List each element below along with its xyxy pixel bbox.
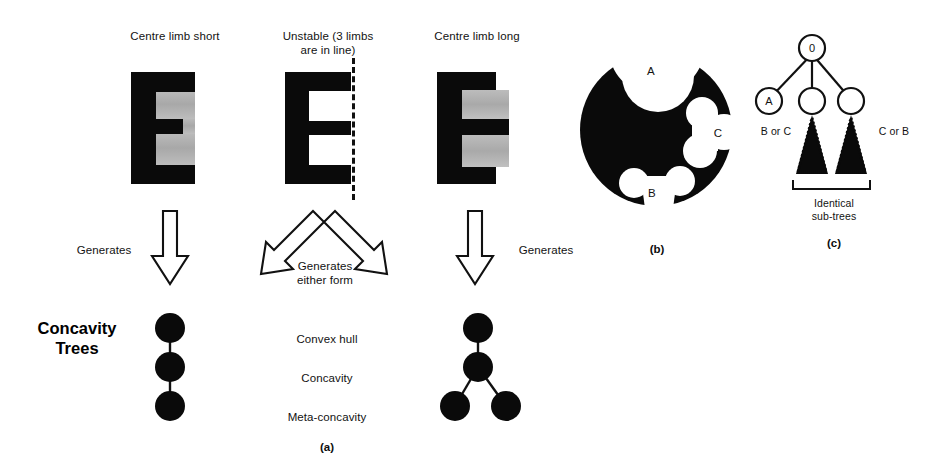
tree-node-label-a: A [758,94,780,108]
panel-a-tag: (a) [282,441,372,453]
level-label-convex-hull: Convex hull [262,332,392,346]
tree-root-label: 0 [801,41,823,55]
concavity-trees-title: Concavity Trees [12,318,142,358]
branch-tree [440,312,532,422]
figure-canvas: Centre limb short Unstable (3 limbs are … [0,0,937,470]
alignment-dashed-line [352,58,355,200]
left-subtree-label: B or C [745,125,807,138]
region-label-b: B [641,186,663,200]
panel-b-tag: (b) [627,243,687,255]
column-heading-3: Centre limb long [392,29,562,43]
letter-e-long-centre-limb [437,72,509,184]
panel-c-tag: (c) [804,237,864,249]
letter-e-flush-limbs [285,72,351,184]
generates-label-fork: Generates either form [275,259,375,287]
column-heading-2: Unstable (3 limbs are in line) [248,29,408,57]
generates-arrow-right [455,210,495,286]
level-label-concavity: Concavity [262,371,392,385]
chain-tree [148,312,192,422]
generates-arrow-left [150,210,190,286]
column-heading-1: Centre limb short [85,29,265,43]
generates-label-right: Generates [500,243,592,257]
region-label-c: C [707,126,729,140]
identical-subtrees-label: Identical sub-trees [779,197,889,223]
generates-label-left: Generates [58,243,150,257]
region-label-a: A [640,64,662,78]
level-label-meta-concavity: Meta-concavity [252,410,402,424]
letter-e-short-centre-limb [131,72,195,184]
right-subtree-label: C or B [863,125,925,138]
